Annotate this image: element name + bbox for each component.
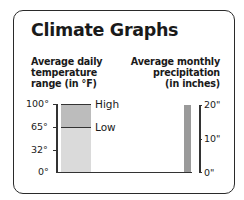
right-label-line: (in inches) [131, 78, 220, 89]
left-axis-label: Average daily temperature range (in °F) [31, 56, 102, 89]
baseline [56, 172, 192, 173]
tick-mark [53, 104, 57, 105]
temp-tick-0: 0° [38, 167, 49, 177]
temperature-below-low-bar [61, 128, 91, 172]
precipitation-bar [184, 105, 191, 172]
chart-title: Climate Graphs [31, 20, 178, 40]
left-label-line: range (in °F) [31, 78, 102, 89]
tick-mark [53, 127, 57, 128]
precip-tick-0: 0" [204, 168, 214, 178]
right-label-line: precipitation [131, 67, 220, 78]
low-line [61, 127, 91, 128]
high-label: High [95, 99, 119, 109]
right-axis-label: Average monthly precipitation (in inches… [131, 56, 220, 89]
high-line [61, 104, 91, 105]
temperature-range-bar [61, 105, 91, 128]
precip-tick-10: 10" [204, 134, 220, 144]
tick-mark [199, 105, 202, 106]
right-label-line: Average monthly [131, 56, 220, 67]
precip-tick-20: 20" [204, 100, 220, 110]
temp-tick-32: 32° [31, 145, 48, 155]
temperature-axis [56, 104, 58, 173]
tick-mark [199, 139, 202, 140]
tick-mark [53, 150, 57, 151]
left-label-line: temperature [31, 67, 102, 78]
temp-tick-100: 100° [26, 99, 49, 109]
tick-mark [199, 172, 202, 173]
left-label-line: Average daily [31, 56, 102, 67]
temp-tick-65: 65° [31, 122, 48, 132]
low-label: Low [95, 122, 116, 132]
